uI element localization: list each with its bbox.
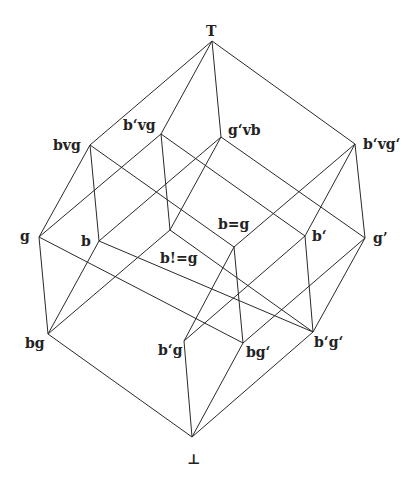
node-label: bg‘ xyxy=(246,344,271,360)
edge-top-g'vb xyxy=(212,41,221,137)
edge-g'vb-bneqg xyxy=(170,137,221,230)
edge-b'vg'-b' xyxy=(305,144,355,236)
node-label: T xyxy=(206,23,217,39)
edge-bvg-beqg xyxy=(90,145,234,247)
edge-top-b'vg xyxy=(161,41,212,134)
node-label: b=g xyxy=(218,216,250,232)
node-label: bvg xyxy=(53,137,81,153)
node-label: g xyxy=(20,228,30,244)
node-label: g’ xyxy=(373,230,388,246)
edge-bg'-bottom xyxy=(192,343,243,437)
edge-g-bg' xyxy=(39,237,243,343)
edge-bvg-g xyxy=(39,145,90,237)
edge-g'-bg' xyxy=(243,238,365,343)
edge-beqg-bg' xyxy=(234,247,243,343)
node-label: bg xyxy=(25,335,45,351)
node-label: b‘g‘ xyxy=(314,334,343,350)
lattice-labels: Tbvgb‘vgg‘vbb‘vg‘gbb!=gb=gb‘g’bgb‘gbg‘b‘… xyxy=(20,23,401,467)
node-label: g‘vb xyxy=(228,122,261,138)
edge-b'vg'-g' xyxy=(355,144,365,238)
edge-b'g-bottom xyxy=(184,341,192,437)
node-label: b‘ xyxy=(312,228,327,244)
node-label: b‘vg xyxy=(123,117,156,133)
node-label: ⊥ xyxy=(187,451,200,467)
node-label: b‘g xyxy=(158,342,183,358)
node-label: b‘vg‘ xyxy=(363,136,401,152)
edge-g'-b'g' xyxy=(313,238,365,332)
edge-b'-b'g xyxy=(184,236,305,341)
edge-g-bg xyxy=(39,237,48,334)
node-label: b!=g xyxy=(160,250,198,266)
node-label: b xyxy=(81,233,91,249)
lattice-diagram: Tbvgb‘vgg‘vbb‘vg‘gbb!=gb=gb‘g’bgb‘gbg‘b‘… xyxy=(0,0,419,484)
edge-b-b'g' xyxy=(99,241,313,332)
